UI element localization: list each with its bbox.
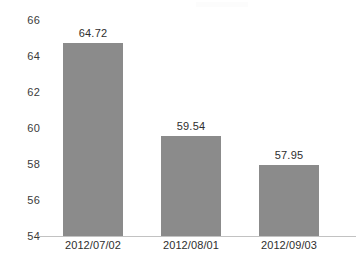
y-tick-label: 58 [27,158,40,170]
bar-group: 59.54 [161,20,221,236]
y-tick-label: 64 [27,50,40,62]
bar-value-label: 64.72 [63,27,123,39]
bar-group: 57.95 [259,20,319,236]
x-category-label: 2012/08/01 [143,239,239,251]
y-tick-label: 66 [27,14,40,26]
bar[interactable] [161,136,221,236]
plot-area: 64.72 59.54 57.95 [44,20,338,236]
bar[interactable] [259,165,319,236]
bar-chart: 66 64 62 60 58 56 54 64.72 59.54 57.95 2… [0,0,361,264]
y-axis: 66 64 62 60 58 56 54 [0,20,40,236]
x-axis-line [38,236,356,237]
bar[interactable] [63,43,123,236]
x-category-label: 2012/09/03 [241,239,337,251]
x-axis: 2012/07/02 2012/08/01 2012/09/03 [44,239,338,259]
bar-value-label: 57.95 [259,149,319,161]
x-category-label: 2012/07/02 [45,239,141,251]
y-tick-label: 56 [27,194,40,206]
scan-artifact [196,2,248,7]
bar-group: 64.72 [63,20,123,236]
y-tick-label: 62 [27,86,40,98]
bar-value-label: 59.54 [161,120,221,132]
y-tick-label: 60 [27,122,40,134]
